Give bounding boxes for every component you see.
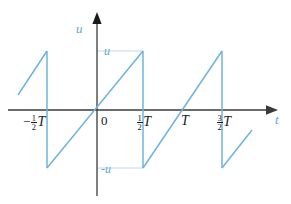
waveform-segment-partial-left xyxy=(18,51,47,95)
fraction-denominator: 2 xyxy=(31,122,37,132)
period-symbol: T xyxy=(223,114,231,129)
y-axis-arrow-icon xyxy=(92,12,101,24)
fraction-three-halves: 32 xyxy=(217,114,223,133)
x-tick-label-three-half-T: 32T xyxy=(216,114,231,133)
x-tick-label-half-T: 12T xyxy=(136,114,151,133)
fraction-one-half: 12 xyxy=(137,114,143,133)
positive-amplitude-label: u xyxy=(104,45,110,57)
x-tick-label-one-T: T xyxy=(181,114,189,128)
fraction-denominator: 2 xyxy=(217,122,223,132)
waveform-figure: u t u -u −12T 0 12T T 32T xyxy=(0,0,291,204)
x-axis-label: t xyxy=(275,113,279,126)
period-symbol: T xyxy=(143,114,151,129)
period-symbol: T xyxy=(181,113,189,128)
negative-amplitude-label: -u xyxy=(101,163,111,175)
waveform-segment-partial-right xyxy=(222,130,252,168)
fraction-numerator: 3 xyxy=(217,114,223,123)
fraction-one-half: 12 xyxy=(31,114,37,133)
fraction-numerator: 1 xyxy=(137,114,143,123)
x-tick-label-neg-half-T: −12T xyxy=(23,114,45,133)
x-tick-label-zero: 0 xyxy=(101,114,108,127)
period-symbol: T xyxy=(38,114,46,129)
fraction-denominator: 2 xyxy=(137,122,143,132)
plot-canvas xyxy=(0,0,291,204)
fraction-numerator: 1 xyxy=(31,114,37,123)
minus-sign: − xyxy=(23,114,30,129)
y-axis-label: u xyxy=(76,22,83,35)
